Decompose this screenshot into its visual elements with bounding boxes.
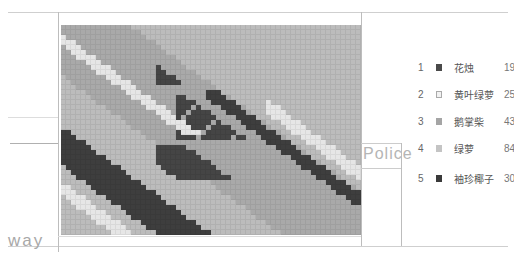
way-label: way — [8, 231, 44, 251]
legend-value: 254 — [504, 89, 514, 100]
legend-value: 430 — [504, 116, 514, 127]
left-rule-lower — [10, 143, 58, 144]
legend-name: 绿萝 — [454, 141, 504, 156]
grid-cell — [356, 230, 361, 235]
grid-bottom-rule — [58, 236, 361, 237]
swatch-icon — [436, 145, 442, 152]
legend-name: 花烛 — [454, 60, 504, 75]
police-label: Police — [363, 145, 413, 163]
legend-item: 3 鹅掌柴 430 — [418, 114, 514, 128]
swatch-icon — [436, 175, 442, 182]
legend-item: 2 黄叶绿萝 254 — [418, 87, 514, 101]
legend-name: 袖珍椰子 — [454, 171, 504, 186]
swatch-icon — [436, 118, 442, 125]
legend-item: 1 花烛 198 — [418, 60, 514, 74]
legend-value: 849 — [504, 143, 514, 154]
legend-value: 300 — [504, 173, 514, 184]
frame-right — [361, 12, 362, 246]
left-rule-upper — [8, 117, 58, 118]
top-rule — [8, 12, 508, 13]
legend-item: 4 绿萝 849 — [418, 141, 514, 155]
swatch-icon — [436, 64, 442, 71]
legend-name: 鹅掌柴 — [454, 114, 504, 129]
pixel-plant-grid — [61, 25, 361, 235]
legend-index: 5 — [418, 173, 436, 184]
swatch-icon — [436, 91, 442, 98]
legend-value: 198 — [504, 62, 514, 73]
legend-index: 3 — [418, 116, 436, 127]
legend-item: 5 袖珍椰子 300 — [418, 171, 514, 185]
legend-index: 1 — [418, 62, 436, 73]
legend-name: 黄叶绿萝 — [454, 87, 504, 102]
bottom-rule — [8, 246, 508, 247]
legend-index: 2 — [418, 89, 436, 100]
legend-index: 4 — [418, 143, 436, 154]
frame-left — [58, 12, 59, 252]
